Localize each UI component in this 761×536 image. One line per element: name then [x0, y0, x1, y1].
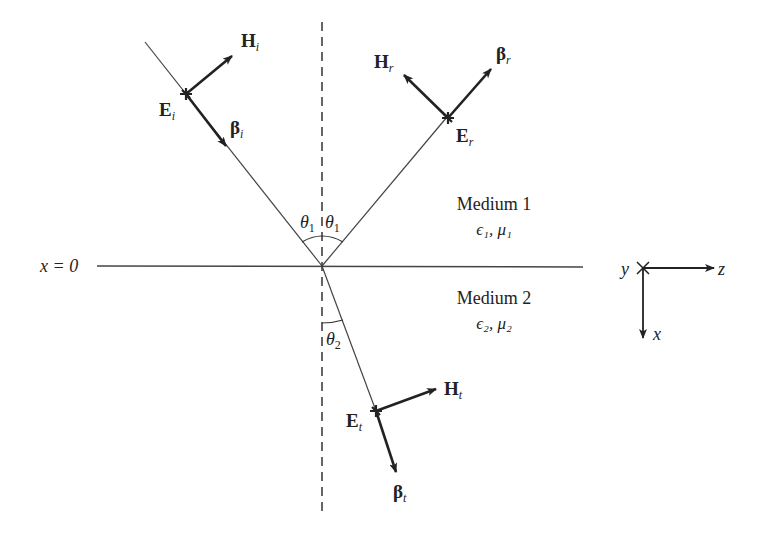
interface-line [97, 266, 583, 267]
incident-beta-label: βi [230, 117, 243, 141]
reflected-e-label: Er [456, 125, 474, 149]
reflected-ray [322, 117, 447, 266]
medium2-name: Medium 2 [457, 288, 532, 308]
reflected-beta-arrow [448, 69, 491, 118]
incident-e-label: Ei [159, 99, 175, 123]
transmitted-wave-vectors: Ht Et βt [346, 378, 463, 505]
y-axis-label: y [619, 259, 629, 279]
reflected-h-arrow [404, 75, 448, 118]
coordinate-axes: y z x [619, 259, 725, 344]
incident-wave-vectors: Hi Ei βi [159, 30, 259, 146]
transmitted-h-arrow [376, 389, 436, 411]
transmitted-e-label: Et [346, 410, 363, 434]
medium1-params: ϵ₁, μ₁ [476, 220, 512, 239]
z-axis-label: z [717, 259, 725, 279]
transmitted-angle-label: θ2 [326, 329, 341, 352]
reflected-wave-vectors: Hr βr Er [374, 43, 511, 149]
transmitted-angle-arc [322, 320, 343, 323]
reflected-angle-label: θ1 [325, 212, 340, 235]
reflected-h-label: Hr [374, 51, 394, 75]
transmitted-beta-label: βt [393, 481, 407, 505]
medium2-params: ϵ₂, μ₂ [476, 314, 512, 333]
incident-angle-arc [302, 236, 322, 242]
transmitted-beta-arrow [376, 411, 396, 472]
transmitted-h-label: Ht [444, 378, 463, 402]
reflected-angle-arc [322, 236, 343, 242]
incident-ray [145, 42, 322, 266]
x-axis-label: x [652, 324, 661, 344]
incident-h-arrow [186, 56, 232, 94]
incident-angle-label: θ1 [300, 212, 315, 235]
interface-label: x = 0 [39, 256, 78, 276]
incident-h-label: Hi [241, 30, 259, 54]
transmitted-e-cross-icon [370, 405, 382, 417]
diagram-svg: x = 0 θ1 θ1 θ2 Medium 1 ϵ₁, μ₁ Medium 2 … [0, 0, 761, 536]
incident-beta-arrow [186, 94, 226, 146]
reflected-beta-label: βr [496, 43, 511, 67]
medium1-name: Medium 1 [457, 194, 532, 214]
reflection-refraction-diagram: x = 0 θ1 θ1 θ2 Medium 1 ϵ₁, μ₁ Medium 2 … [0, 0, 761, 536]
